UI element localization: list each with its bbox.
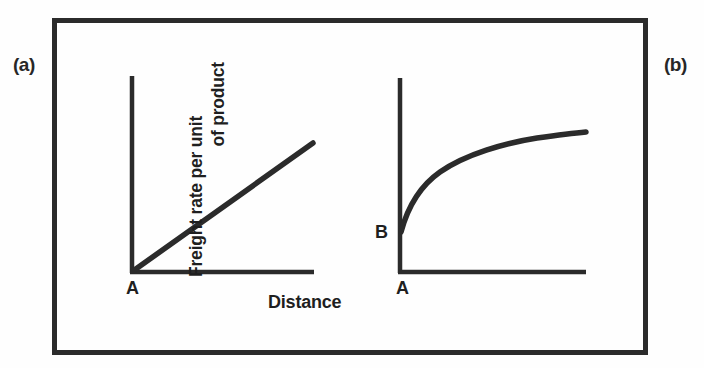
y-axis-label-line-2: of product [111, 62, 326, 277]
panel-tag-a: (a) [13, 54, 35, 76]
figure-root: (a) (b) Freight rate per unit of product… [0, 0, 704, 368]
panel-a-origin-label: A [126, 278, 139, 299]
panel-b-intercept-label: B [375, 222, 388, 243]
panel-b-origin-label: A [396, 278, 409, 299]
y-axis-label: Freight rate per unit of product [72, 62, 124, 277]
panel-tag-b: (b) [664, 54, 687, 76]
x-axis-label: Distance [268, 292, 341, 313]
